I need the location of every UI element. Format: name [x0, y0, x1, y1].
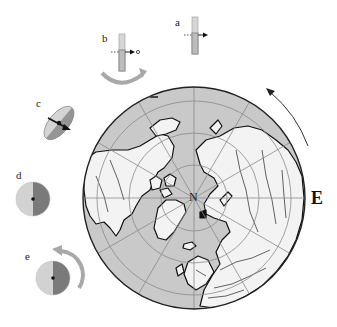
eurasia-north: [196, 126, 304, 308]
disc-dark-half: [53, 261, 70, 295]
disc-light-half: [36, 261, 53, 295]
arrowhead-icon: [52, 245, 62, 256]
label-e: e: [25, 251, 30, 262]
north-pole-label: N: [189, 191, 198, 203]
label-a: a: [175, 17, 180, 28]
bar-a-lower: [192, 33, 198, 54]
map-mark: [150, 96, 158, 98]
circle-marker-icon: [136, 50, 139, 53]
subfigure-a: [184, 17, 208, 54]
figure-canvas: a b c d e N E: [0, 0, 337, 327]
disc-light-half: [16, 182, 33, 216]
center-dot: [51, 276, 55, 280]
subfigure-d: [16, 182, 50, 216]
bar-b-lower: [119, 50, 125, 71]
subfigure-e: [36, 245, 83, 295]
east-label: E: [311, 189, 323, 207]
arrow-right-icon: [130, 50, 135, 55]
label-d: d: [16, 170, 22, 181]
subfigure-b: [102, 34, 147, 83]
label-c: c: [36, 98, 41, 109]
arrow-right-icon: [203, 33, 208, 38]
disc-dark-half: [33, 182, 50, 216]
label-b: b: [102, 33, 108, 44]
rotation-arrow-b: [102, 73, 143, 83]
diagram-svg: [0, 0, 337, 327]
center-dot: [31, 197, 35, 201]
